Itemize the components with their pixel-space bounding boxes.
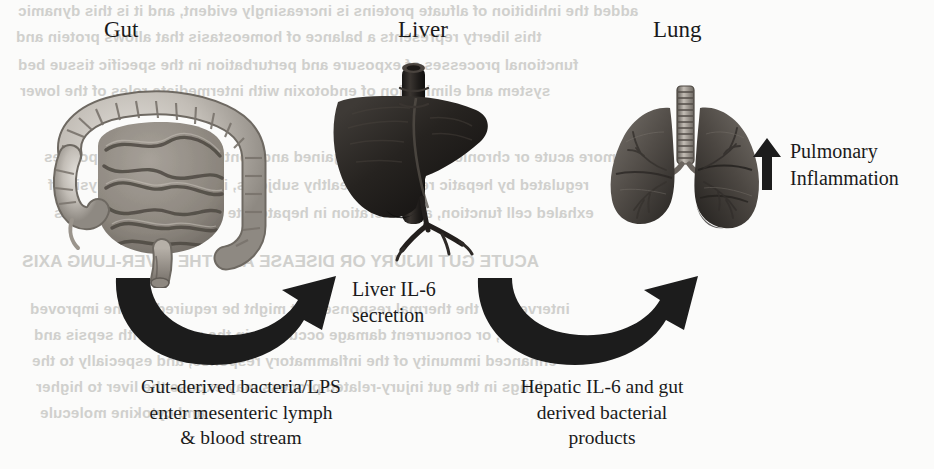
caption-line: & blood stream — [76, 425, 406, 451]
annotation-line: secretion — [352, 302, 436, 328]
annotation-liver-il6-secretion: Liver IL-6 secretion — [352, 276, 436, 328]
lungs-illustration — [596, 78, 776, 243]
annotation-line: Pulmonary — [790, 138, 899, 165]
gut-liver-lung-axis-figure: added the inhibition of alfuate proteins… — [0, 0, 934, 469]
caption-line: enter mesenteric lymph — [76, 400, 406, 426]
annotation-pulmonary-inflammation: Pulmonary Inflammation — [790, 138, 899, 192]
annotation-line: Liver IL-6 — [352, 276, 436, 302]
curved-arrow-gut-to-liver — [108, 272, 356, 374]
annotation-line: Inflammation — [790, 165, 899, 192]
caption-gut-derived-bacteria: Gut-derived bacteria/LPS enter mesenteri… — [76, 374, 406, 451]
organ-label-liver: Liver — [398, 18, 448, 41]
arrow-up-icon — [752, 138, 782, 194]
caption-hepatic-il6-products: Hepatic IL-6 and gut derived bacterial p… — [452, 374, 752, 451]
caption-line: Gut-derived bacteria/LPS — [76, 374, 406, 400]
curved-arrow-liver-to-lung — [470, 272, 718, 374]
caption-line: products — [452, 425, 752, 451]
caption-line: Hepatic IL-6 and gut — [452, 374, 752, 400]
organ-label-lung: Lung — [653, 18, 702, 41]
liver-illustration — [330, 58, 545, 273]
gut-intestine-illustration — [40, 58, 290, 288]
organ-label-gut: Gut — [104, 18, 139, 41]
caption-line: derived bacterial — [452, 400, 752, 426]
bleed-through-text: this liberty represents a balance of hom… — [16, 28, 541, 45]
